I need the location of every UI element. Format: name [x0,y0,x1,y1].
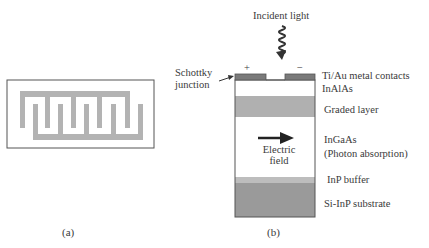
layer-label-graded: Graded layer [324,104,379,116]
layer-graded [235,96,315,117]
schottky-label-line2: junction [175,79,209,91]
plus-label: + [244,62,250,74]
caption-a: (a) [62,226,74,238]
layer-label-substrate: Si-InP substrate [324,198,390,210]
electric-field-label-line2: field [259,155,299,167]
layer-label-inp-buffer: InP buffer [327,174,369,186]
incident-light-label: Incident light [253,10,309,22]
layer-inp-buffer [235,177,315,183]
layer-inalas [235,80,315,96]
incident-light-wave-icon [279,26,285,54]
layer-label-ingaas-sub: (Photon absorption) [324,148,408,160]
incident-light-arrowhead-icon [276,50,286,60]
contact-left [235,74,266,80]
schottky-arrowhead-icon [228,75,234,80]
layer-label-inalas: InAlAs [322,83,353,95]
caption-b: (b) [267,226,280,238]
layer-label-ingaas: InGaAs [324,134,357,146]
diagram-canvas [0,0,429,248]
layer-substrate [235,183,315,217]
contact-right [285,74,315,80]
minus-label: − [297,62,303,74]
layer-label-contacts: Ti/Au metal contacts [322,70,410,82]
schottky-label-line1: Schottky [175,67,212,79]
